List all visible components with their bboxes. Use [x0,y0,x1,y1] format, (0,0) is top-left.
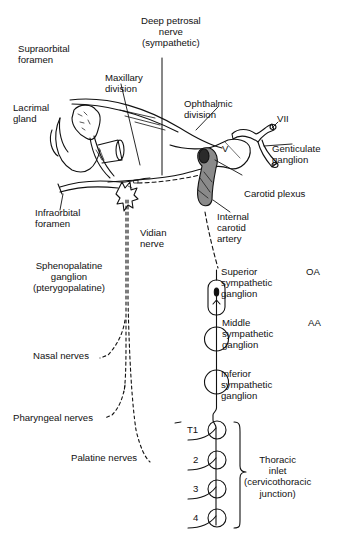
label-infraorbital-foramen: Infraorbital foramen [35,207,80,229]
label-v: V [222,143,228,154]
label-internal-carotid-artery: Internal carotid artery [217,211,249,245]
label-t4: 4 [193,512,198,523]
label-geniculate-ganglion: Genticulate ganglion [272,143,321,165]
label-oa: OA [306,266,320,277]
label-nasal-nerves: Nasal nerves [33,350,89,361]
label-t3: 3 [193,483,198,494]
label-vii: VII [277,113,289,124]
label-vidian-nerve: Vidian nerve [140,227,167,249]
label-inferior-sympathetic-ganglion: Inferior sympathetic ganglion [221,368,272,402]
label-ophthalmic-division: Ophthalmic division [184,98,233,120]
label-superior-sympathetic-ganglion: Superior sympathetic ganglion [221,266,272,300]
label-supraorbital-foramen: Supraorbital foramen [18,43,70,65]
label-carotid-plexus: Carotid plexus [244,188,305,199]
label-lacrimal-gland: Lacrimal gland [13,102,49,124]
lacrimal-gland [72,105,100,139]
label-t1: T1 [187,424,198,435]
label-middle-sympathetic-ganglion: Middle sympathetic ganglion [222,317,273,351]
sphenopalatine-ganglion [116,180,138,211]
label-thoracic-inlet: Thoracic inlet (cervicothoracic junction… [244,454,311,499]
eye-globe [50,118,100,172]
label-deep-petrosal-nerve: Deep petrosal nerve (sympathetic) [141,15,201,49]
label-pharyngeal-nerves: Pharyngeal nerves [13,412,93,423]
label-palatine-nerves: Palatine nerves [71,452,137,463]
label-aa: AA [308,317,321,328]
label-t2: 2 [193,454,198,465]
diagram-canvas: Deep petrosal nerve (sympathetic) Suprao… [0,0,341,548]
label-sphenopalatine-ganglion: Sphenopalatine ganglion (pterygopalatine… [33,260,105,294]
label-maxillary-division: Maxillary division [105,72,143,94]
internal-carotid-artery [197,148,217,206]
